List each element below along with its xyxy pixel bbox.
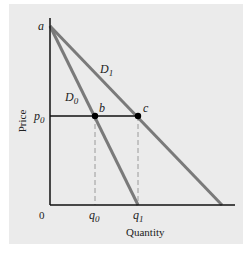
point-c: [135, 113, 141, 119]
point-a-label: a: [38, 19, 44, 33]
d0-label: D0: [64, 90, 79, 106]
q1-tick-label: q1: [133, 208, 144, 224]
p0-tick-label: p0: [33, 109, 45, 125]
d1-label: D1: [99, 62, 113, 78]
point-b-label: b: [99, 101, 105, 115]
y-axis-title: Price: [16, 110, 28, 133]
demand-chart: a b c D0 D1 p0 q0 q1 0 Quantity Price: [0, 0, 251, 253]
point-c-label: c: [143, 101, 149, 115]
origin-label: 0: [39, 209, 45, 221]
point-b: [92, 113, 98, 119]
q0-tick-label: q0: [89, 208, 100, 224]
x-axis-title: Quantity: [126, 226, 165, 238]
